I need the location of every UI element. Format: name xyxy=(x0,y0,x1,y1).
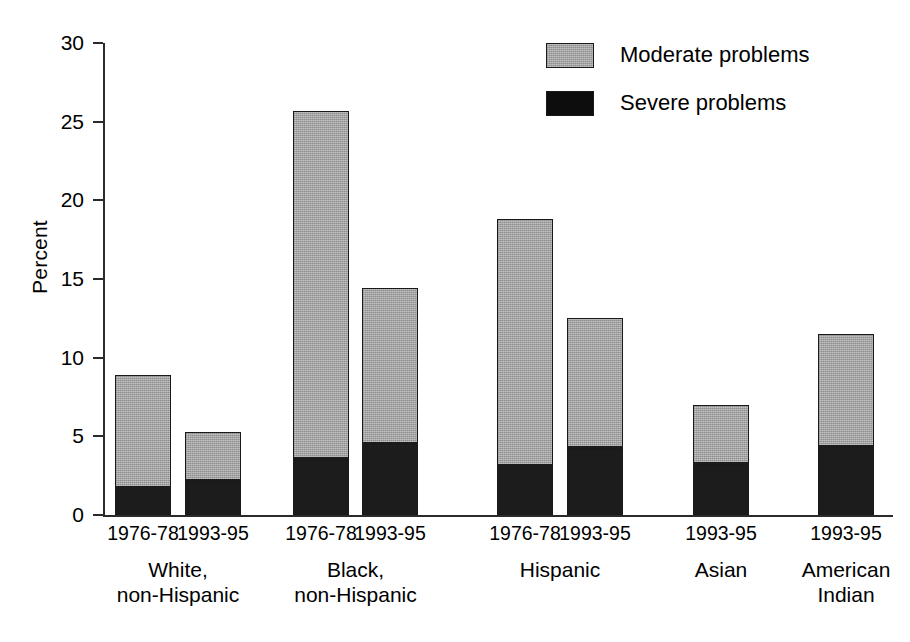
chart-figure: Percent 302520151050 1976-781993-95White… xyxy=(0,0,910,642)
group-label-line2: non-Hispanic xyxy=(246,582,466,607)
period-label: 1993-95 xyxy=(153,522,273,544)
bar-asian-1993-95 xyxy=(693,405,749,515)
segment-moderate xyxy=(294,112,348,460)
bar-hispanic-1993-95 xyxy=(567,318,623,515)
legend-label-moderate: Moderate problems xyxy=(620,43,810,67)
segment-divider xyxy=(819,447,873,449)
segment-severe xyxy=(186,479,240,514)
y-tick-label-10: 10 xyxy=(30,347,84,368)
segment-moderate xyxy=(819,335,873,447)
y-tick-10 xyxy=(93,357,103,359)
severe-swatch-icon xyxy=(546,91,594,116)
segment-severe xyxy=(363,442,417,514)
segment-moderate xyxy=(498,220,552,465)
y-tick-label-25: 25 xyxy=(30,111,84,132)
segment-divider xyxy=(294,459,348,461)
segment-divider xyxy=(116,488,170,490)
legend-item-moderate: Moderate problems xyxy=(546,38,886,72)
bar-american-indian-1993-95 xyxy=(818,334,874,515)
y-tick-30 xyxy=(93,42,103,44)
y-tick-label-20: 20 xyxy=(30,189,84,210)
y-tick-5 xyxy=(93,435,103,437)
period-label: 1993-95 xyxy=(786,522,906,544)
bar-hispanic-1976-78 xyxy=(497,219,553,515)
segment-divider xyxy=(363,444,417,446)
segment-divider xyxy=(568,448,622,450)
group-label: AmericanIndian xyxy=(736,557,910,607)
chart-legend: Moderate problems Severe problems xyxy=(546,38,886,134)
segment-moderate xyxy=(568,319,622,448)
segment-moderate xyxy=(116,376,170,488)
segment-severe xyxy=(498,464,552,514)
y-tick-25 xyxy=(93,121,103,123)
x-axis-line xyxy=(103,515,893,517)
bar-black-non-hispanic-1976-78 xyxy=(293,111,349,515)
bar-black-non-hispanic-1993-95 xyxy=(362,288,418,515)
segment-severe xyxy=(568,446,622,514)
period-label: 1993-95 xyxy=(661,522,781,544)
segment-divider xyxy=(694,464,748,466)
segment-moderate xyxy=(363,289,417,443)
segment-divider xyxy=(498,466,552,468)
period-label: 1993-95 xyxy=(330,522,450,544)
legend-label-severe: Severe problems xyxy=(620,91,786,115)
y-tick-20 xyxy=(93,199,103,201)
period-label: 1993-95 xyxy=(535,522,655,544)
legend-item-severe: Severe problems xyxy=(546,86,886,120)
moderate-swatch-icon xyxy=(546,43,594,68)
y-tick-label-5: 5 xyxy=(30,425,84,446)
group-label-line2: Indian xyxy=(736,582,910,607)
group-label-line1: American xyxy=(736,557,910,582)
segment-severe xyxy=(294,457,348,514)
segment-severe xyxy=(694,462,748,514)
group-label: Black,non-Hispanic xyxy=(246,557,466,607)
bar-white-non-hispanic-1976-78 xyxy=(115,375,171,515)
y-tick-0 xyxy=(93,514,103,516)
segment-moderate xyxy=(694,406,748,464)
segment-severe xyxy=(116,486,170,514)
segment-divider xyxy=(186,481,240,483)
y-tick-label-15: 15 xyxy=(30,268,84,289)
y-axis-line xyxy=(103,43,105,516)
group-label-line1: Black, xyxy=(246,557,466,582)
y-tick-label-30: 30 xyxy=(30,32,84,53)
segment-moderate xyxy=(186,433,240,482)
y-tick-label-0: 0 xyxy=(30,504,84,525)
y-tick-15 xyxy=(93,278,103,280)
segment-severe xyxy=(819,445,873,514)
bar-white-non-hispanic-1993-95 xyxy=(185,432,241,515)
